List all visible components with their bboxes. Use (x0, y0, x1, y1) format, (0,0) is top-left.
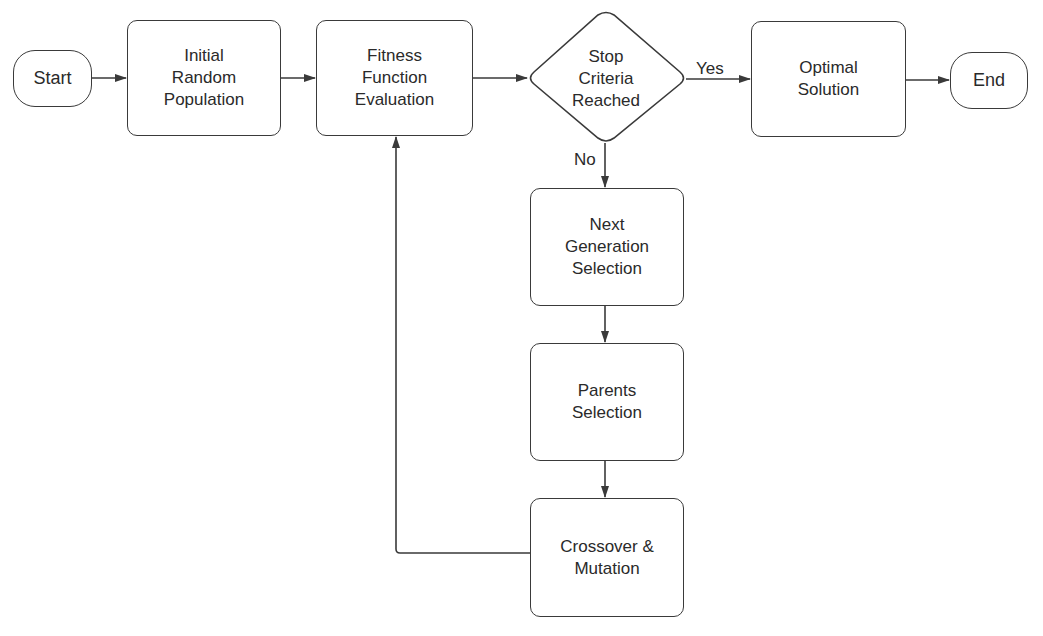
edge-crossover-to-fitness-loop (396, 137, 530, 553)
initial-population-node: Initial Random Population (127, 20, 281, 136)
optimal-solution-node: Optimal Solution (751, 21, 906, 137)
start-label: Start (33, 67, 71, 90)
crossover-mutation-label: Crossover & Mutation (560, 536, 654, 580)
fitness-evaluation-label: Fitness Function Evaluation (355, 45, 434, 110)
yes-edge-label: Yes (696, 59, 724, 79)
fitness-evaluation-node: Fitness Function Evaluation (316, 20, 473, 136)
next-generation-node: Next Generation Selection (530, 188, 684, 306)
next-generation-label: Next Generation Selection (565, 214, 649, 279)
no-edge-label: No (574, 150, 596, 170)
initial-population-label: Initial Random Population (164, 45, 244, 110)
crossover-mutation-node: Crossover & Mutation (530, 498, 684, 617)
parents-selection-label: Parents Selection (572, 380, 642, 424)
optimal-solution-label: Optimal Solution (798, 57, 859, 101)
stop-criteria-label: Stop Criteria Reached (546, 46, 666, 111)
end-label: End (973, 69, 1005, 92)
end-node: End (950, 52, 1028, 109)
start-node: Start (13, 50, 92, 107)
parents-selection-node: Parents Selection (530, 343, 684, 461)
